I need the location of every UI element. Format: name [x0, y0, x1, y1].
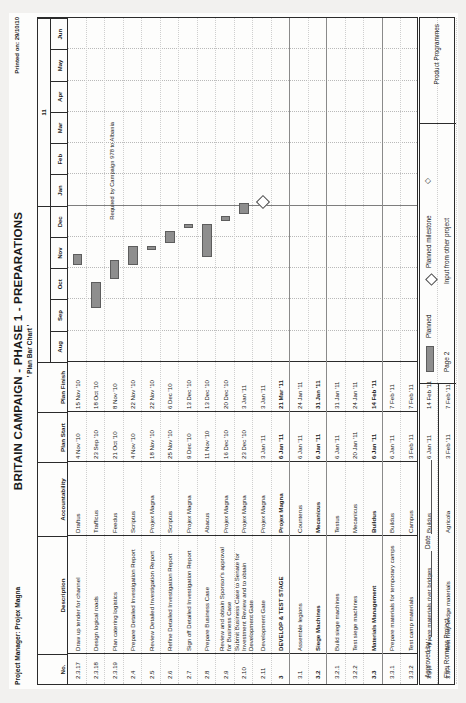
gantt-bar[interactable]: [239, 203, 249, 214]
row-plan-start: 6 Jan '11: [327, 412, 346, 462]
row-number: 2.3.18: [87, 652, 106, 682]
gantt-chart-sheet: Project Manager: Projex Magna BRITAIN CA…: [9, 13, 458, 689]
table-row[interactable]: 3.3.2Test camp materialsCampus3 Feb '117…: [401, 18, 420, 684]
row-accountability: Draftus: [68, 462, 87, 536]
month-header-sep: Sep: [51, 299, 68, 330]
row-accountability: Projex Magna: [235, 462, 254, 536]
row-plan-start: 3 Jan '11: [253, 412, 272, 462]
approved-by-label: Approved by : Date: [424, 460, 432, 678]
footer-divider-2: [420, 123, 456, 124]
milestone-diamond[interactable]: [256, 195, 270, 209]
gantt-bar[interactable]: [110, 260, 120, 279]
table-row[interactable]: 2.4Prepare Detailed Investigation Report…: [124, 18, 143, 684]
row-number: 3.2: [309, 652, 328, 682]
programme-label: Product Programmes: [433, 24, 440, 84]
table-row[interactable]: 3.2Siege MachinesMecanicus6 Jan '1131 Ja…: [309, 18, 328, 684]
row-plan-start: 4 Nov '10: [68, 412, 87, 462]
row-accountability: Projex Magna: [179, 462, 198, 536]
table-row[interactable]: 2.11Development GateProjex Magna3 Jan '1…: [253, 18, 272, 684]
table-row[interactable]: 2.3.18Design logical roadsTrafficus23 Se…: [87, 18, 106, 684]
row-accountability: Buildus: [364, 462, 383, 536]
table-row[interactable]: 3.1Assemble legionsCounterus6 Jan '1124 …: [290, 18, 309, 684]
file-label: File: Romans Project: [443, 619, 450, 678]
annotation-label: Required by Campaign 978 to Albania: [109, 122, 115, 220]
gantt-bar[interactable]: [165, 231, 175, 243]
page-subtitle: ' Plan Bar Chart ': [26, 13, 33, 689]
row-plan-finish: 31 Jan '11: [309, 362, 328, 412]
gantt-bar[interactable]: [128, 246, 138, 265]
gantt-bar[interactable]: [91, 282, 101, 308]
row-plan-start: 20 Jan '11: [346, 412, 365, 462]
row-plan-finish: 8 Nov '10: [105, 362, 124, 412]
row-number: 2.3.17: [68, 652, 87, 682]
row-plan-finish: 13 Dec '10: [179, 362, 198, 412]
legend-milestone-icon: [425, 273, 438, 286]
table-row[interactable]: 2.6Refine Detailed Investigation ReportS…: [161, 18, 180, 684]
row-description: DEVELOP & TEST STAGE: [272, 536, 291, 654]
table-row[interactable]: 2.8Prepare Business CaseAbacus11 Nov '10…: [198, 18, 217, 684]
row-plan-start: 25 Nov '10: [161, 412, 180, 462]
row-number: 2.9: [216, 652, 235, 682]
row-accountability: Counterus: [290, 462, 309, 536]
row-number: 2.10: [235, 652, 254, 682]
row-number: 2.3.19: [105, 652, 124, 682]
row-number: 3.3.2: [401, 652, 420, 682]
table-row[interactable]: 3.2.1Build siege machinesTestus6 Jan '11…: [327, 18, 346, 684]
table-row[interactable]: 2.5Review Detailed Investigation ReportP…: [142, 18, 161, 684]
table-row[interactable]: 3.3Materials ManagementBuildus6 Jan '111…: [364, 18, 383, 684]
gantt-bar[interactable]: [202, 224, 212, 257]
row-plan-start: 6 Jan '11: [309, 412, 328, 462]
row-description: Assemble legions: [290, 536, 309, 654]
table-row[interactable]: 2.3.17Draw up tender for channelDraftus4…: [68, 18, 87, 684]
row-accountability: Projex Magna: [253, 462, 272, 536]
row-plan-finish: 22 Nov '10: [124, 362, 143, 412]
approved-by-line[interactable]: [424, 551, 432, 637]
input-from-other-project-icon: ◇: [423, 178, 432, 184]
date-line[interactable]: [424, 460, 432, 534]
table-row[interactable]: 3.2.2Test siege machinesMecanicus20 Jan …: [346, 18, 365, 684]
row-number: 2.7: [179, 652, 198, 682]
row-description: Prepare materials for temporary camps: [383, 536, 402, 654]
table-row[interactable]: 2.9Review and obtain Sponsor's approval …: [216, 18, 235, 684]
row-description: Development Gate: [253, 536, 272, 654]
gantt-bar[interactable]: [221, 216, 231, 220]
row-plan-finish: 20 Dec '10: [216, 362, 235, 412]
row-number: 2.4: [124, 652, 143, 682]
row-accountability: Projex Magna: [272, 462, 291, 536]
table-row[interactable]: 2.10Submit Business Case to Senate for I…: [235, 18, 254, 684]
row-plan-start: 21 Oct '10: [105, 412, 124, 462]
row-description: Materials Management: [364, 536, 383, 654]
row-accountability: Mecanicus: [309, 462, 328, 536]
column-header-description: Description: [38, 536, 68, 654]
row-description: Review Detailed Investigation Report: [142, 536, 161, 654]
footer-divider-3: [438, 384, 439, 684]
row-plan-finish: 22 Nov '10: [142, 362, 161, 412]
scanned-page-background: Project Manager: Projex Magna BRITAIN CA…: [0, 0, 466, 703]
row-plan-start: 23 Sep '10: [87, 412, 106, 462]
row-plan-finish: 15 Nov '10: [68, 362, 87, 412]
row-plan-finish: 31 Jan '11: [327, 362, 346, 412]
row-plan-finish: 21 Mar '11: [272, 362, 291, 412]
gantt-bar[interactable]: [184, 224, 194, 228]
column-header-row: No.DescriptionAccountabilityPlan StartPl…: [38, 18, 68, 684]
gantt-bar[interactable]: [73, 254, 83, 265]
gantt-grid: No.DescriptionAccountabilityPlan StartPl…: [37, 17, 418, 685]
month-header-dec: Dec: [51, 206, 68, 237]
row-description: Submit Business Case to Senate for Inves…: [235, 536, 254, 654]
table-row[interactable]: 2.3.19Plan catering logisticsFeedus21 Oc…: [105, 18, 124, 684]
year-band-10: [38, 206, 51, 362]
month-header-oct: Oct: [51, 268, 68, 299]
table-row[interactable]: 3DEVELOP & TEST STAGEProjex Magna6 Jan '…: [272, 18, 291, 684]
row-description: Test siege machines: [346, 536, 365, 654]
row-plan-finish: 7 Feb '11: [383, 362, 402, 412]
row-plan-finish: 7 Feb '11: [401, 362, 420, 412]
table-row[interactable]: 2.7Sign off Detailed Investigation Repor…: [179, 18, 198, 684]
table-row[interactable]: 3.3.1Prepare materials for temporary cam…: [383, 18, 402, 684]
row-plan-start: 6 Jan '11: [290, 412, 309, 462]
month-header-aug: Aug: [51, 331, 68, 362]
row-plan-start: 3 Feb '11: [401, 412, 420, 462]
column-header-plan-finish: Plan Finish: [38, 362, 68, 412]
gantt-bar[interactable]: [147, 246, 157, 250]
row-plan-start: 6 Jan '11: [272, 412, 291, 462]
row-number: 2.11: [253, 652, 272, 682]
